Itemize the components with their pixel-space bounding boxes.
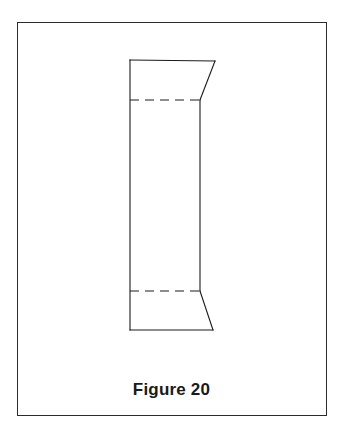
figure-frame-border bbox=[17, 22, 327, 416]
figure-page: Figure 20 bbox=[0, 0, 343, 434]
figure-caption: Figure 20 bbox=[0, 379, 343, 401]
